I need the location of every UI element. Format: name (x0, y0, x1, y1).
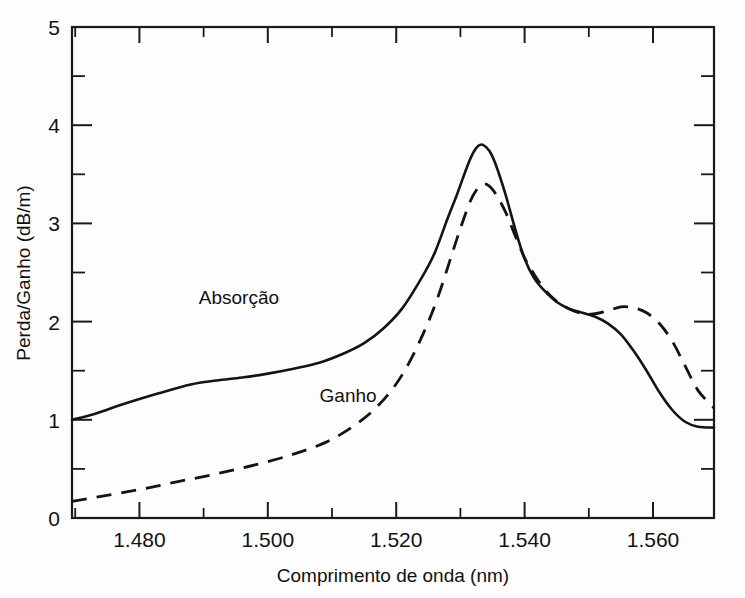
y-tick-label: 2 (48, 311, 60, 334)
y-axis-title: Perda/Ganho (dB/m) (13, 185, 34, 360)
x-tick-label: 1.520 (370, 528, 423, 551)
chart-background (0, 0, 745, 598)
series-label-absorcao: Absorção (199, 287, 279, 308)
x-tick-label: 1.540 (498, 528, 551, 551)
y-tick-label: 1 (48, 409, 60, 432)
y-tick-label: 4 (48, 114, 60, 137)
x-axis-title: Comprimento de onda (nm) (277, 565, 509, 586)
y-tick-label: 0 (48, 507, 60, 530)
x-tick-label: 1.560 (627, 528, 680, 551)
y-tick-label: 3 (48, 212, 60, 235)
chart-figure: 1.4801.5001.5201.5401.560 012345 Absorçã… (0, 0, 745, 598)
x-tick-label: 1.500 (242, 528, 295, 551)
chart-plot-area: 1.4801.5001.5201.5401.560 012345 Absorçã… (0, 0, 745, 598)
series-label-ganho: Ganho (320, 385, 377, 406)
y-tick-label: 5 (48, 16, 60, 39)
x-tick-label: 1.480 (113, 528, 166, 551)
